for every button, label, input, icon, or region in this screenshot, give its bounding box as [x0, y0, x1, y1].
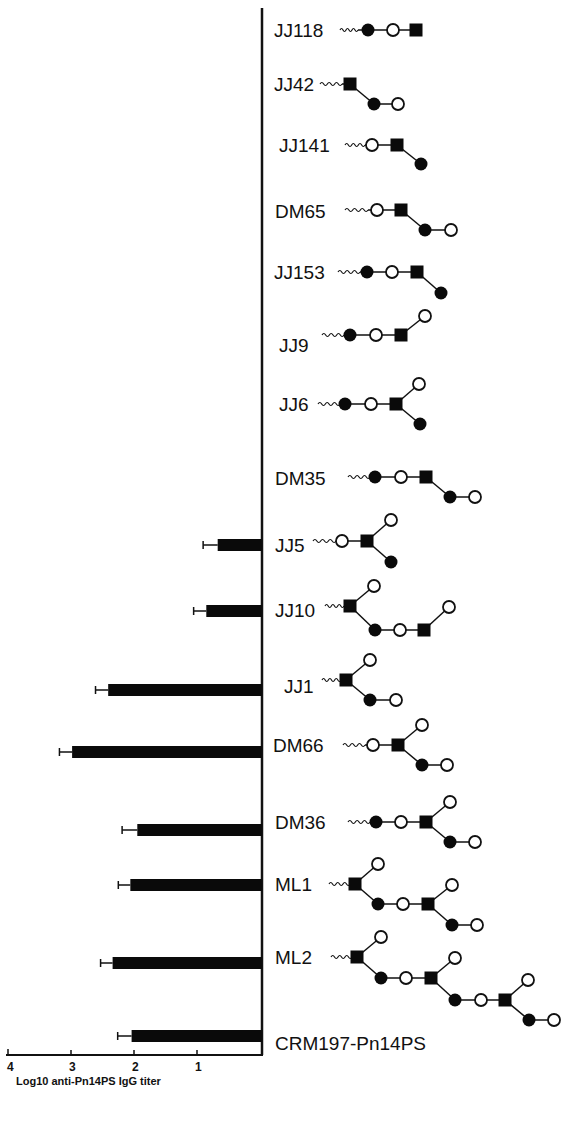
- open-circle-icon: [441, 759, 453, 771]
- x-tick-label: 1: [195, 1060, 202, 1074]
- glycan-dm36: [348, 796, 481, 849]
- filled-circle-icon: [344, 329, 357, 342]
- open-circle-icon: [522, 974, 534, 986]
- filled-square-icon: [411, 266, 424, 279]
- category-label: JJ42: [274, 74, 314, 95]
- open-circle-icon: [385, 514, 397, 526]
- open-circle-icon: [392, 98, 404, 110]
- linker-icon: [343, 744, 365, 747]
- open-circle-icon: [371, 204, 383, 216]
- open-circle-icon: [387, 24, 399, 36]
- open-circle-icon: [400, 972, 412, 984]
- category-label: DM35: [275, 468, 326, 489]
- filled-circle-icon: [444, 836, 457, 849]
- category-label: JJ5: [275, 535, 305, 556]
- filled-circle-icon: [419, 224, 432, 237]
- filled-square-icon: [351, 951, 364, 964]
- open-circle-icon: [443, 601, 455, 613]
- open-circle-icon: [419, 310, 431, 322]
- open-circle-icon: [397, 898, 409, 910]
- filled-square-icon: [392, 739, 405, 752]
- glycan-jj5: [313, 514, 398, 569]
- linker-icon: [338, 271, 360, 274]
- filled-circle-icon: [370, 816, 383, 829]
- glycan-jj1: [322, 654, 402, 707]
- open-circle-icon: [386, 266, 398, 278]
- open-circle-icon: [469, 491, 481, 503]
- linker-icon: [329, 883, 350, 886]
- bar-dm66: [59, 746, 262, 758]
- linker-icon: [348, 821, 370, 824]
- filled-circle-icon: [368, 98, 381, 111]
- category-label: DM36: [275, 812, 326, 833]
- filled-circle-icon: [446, 919, 459, 932]
- glycan-jj141: [345, 139, 428, 171]
- filled-square-icon: [361, 535, 374, 548]
- filled-circle-icon: [444, 491, 457, 504]
- filled-square-icon: [344, 78, 357, 91]
- open-circle-icon: [446, 879, 458, 891]
- filled-circle-icon: [369, 471, 382, 484]
- linker-icon: [320, 83, 342, 86]
- open-circle-icon: [471, 919, 483, 931]
- filled-circle-icon: [375, 972, 388, 985]
- category-label: ML1: [275, 874, 312, 895]
- open-circle-icon: [372, 858, 384, 870]
- open-circle-icon: [416, 719, 428, 731]
- category-label: DM66: [273, 735, 324, 756]
- x-axis-title: Log10 anti-Pn14PS IgG titer: [16, 1075, 162, 1087]
- glycan-dm66: [343, 719, 453, 772]
- linker-icon: [322, 679, 341, 682]
- bar-jj10: [194, 605, 262, 617]
- bar-jj1: [96, 684, 262, 696]
- filled-circle-icon: [361, 266, 374, 279]
- open-circle-icon: [367, 739, 379, 751]
- category-label: JJ1: [284, 676, 314, 697]
- category-label: JJ153: [274, 262, 325, 283]
- filled-square-icon: [349, 878, 362, 891]
- category-label: DM65: [275, 201, 326, 222]
- bar-crm197-pn14ps: [118, 1030, 262, 1042]
- glycan-jj42: [320, 78, 404, 111]
- filled-square-icon: [395, 204, 408, 217]
- glycan-jj6: [318, 378, 427, 431]
- open-circle-icon: [449, 952, 461, 964]
- glycan-ml1: [329, 858, 483, 932]
- open-circle-icon: [336, 535, 348, 547]
- filled-circle-icon: [435, 287, 448, 300]
- filled-square-icon: [391, 139, 404, 152]
- filled-square-icon: [410, 24, 423, 37]
- bar-dm36: [122, 824, 262, 836]
- category-label: JJ6: [279, 394, 309, 415]
- glycan-jj153: [338, 266, 448, 300]
- x-tick-label: 2: [132, 1060, 139, 1074]
- filled-square-icon: [344, 600, 357, 613]
- open-circle-icon: [413, 378, 425, 390]
- open-circle-icon: [445, 224, 457, 236]
- open-circle-icon: [366, 139, 378, 151]
- open-circle-icon: [375, 931, 387, 943]
- filled-square-icon: [420, 471, 433, 484]
- open-circle-icon: [444, 796, 456, 808]
- linker-icon: [345, 144, 365, 147]
- glycan-structures: [313, 24, 560, 1027]
- category-label: JJ118: [274, 20, 323, 41]
- filled-circle-icon: [372, 898, 385, 911]
- filled-square-icon: [420, 816, 433, 829]
- glycan-jj9: [322, 310, 431, 342]
- filled-circle-icon: [523, 1014, 536, 1027]
- category-label: JJ9: [279, 335, 309, 356]
- linker-icon: [313, 540, 336, 543]
- glycan-dm65: [345, 204, 457, 237]
- x-tick-labels: 4321: [7, 1060, 202, 1074]
- open-circle-icon: [390, 694, 402, 706]
- filled-circle-icon: [339, 398, 352, 411]
- linker-icon: [348, 476, 370, 479]
- filled-square-icon: [499, 994, 512, 1007]
- filled-circle-icon: [415, 158, 428, 171]
- open-circle-icon: [365, 398, 377, 410]
- filled-circle-icon: [416, 759, 429, 772]
- filled-square-icon: [418, 624, 431, 637]
- bar-ml1: [118, 879, 262, 891]
- open-circle-icon: [548, 1014, 560, 1026]
